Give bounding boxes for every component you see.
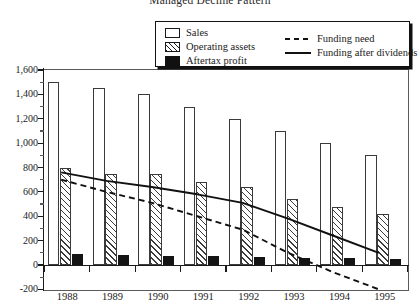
legend-item-aftertax-profit: Aftertax profit [165, 54, 255, 68]
legend-item-funding-need: Funding need [285, 32, 417, 46]
legend-label-aftertax-profit: Aftertax profit [186, 56, 247, 67]
legend-label-operating-assets: Operating assets [186, 42, 255, 53]
legend-item-operating-assets: Operating assets [165, 40, 255, 54]
legend-column-lines: Funding need Funding after dividends [285, 32, 417, 60]
legend-label-funding-need: Funding need [317, 34, 374, 45]
legend-label-funding-after-dividends: Funding after dividends [317, 48, 417, 59]
chart-root: Managed Decline Pattern -200020040060080… [0, 0, 420, 304]
legend-solid-line-icon [285, 48, 311, 58]
legend-swatch-hatched-icon [165, 42, 180, 52]
legend-column-bars: Sales Operating assets Aftertax profit [165, 26, 255, 68]
legend-item-funding-after-dividends: Funding after dividends [285, 46, 417, 60]
line-funding-after-dividends [61, 172, 379, 252]
legend-label-sales: Sales [186, 28, 208, 39]
chart-legend: Sales Operating assets Aftertax profit F… [155, 21, 410, 67]
legend-swatch-open-icon [165, 28, 180, 38]
legend-swatch-black-icon [165, 56, 180, 66]
legend-item-sales: Sales [165, 26, 255, 40]
legend-dashed-line-icon [285, 34, 311, 44]
